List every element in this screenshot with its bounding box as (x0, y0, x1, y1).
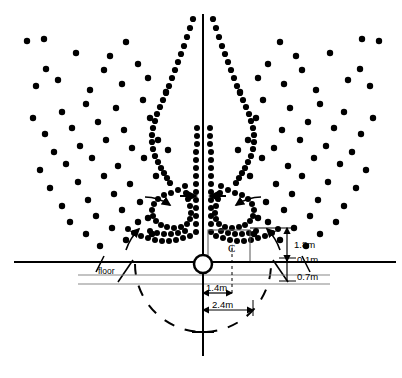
data-point (271, 145, 277, 151)
data-point (101, 173, 107, 179)
data-point (358, 131, 364, 137)
data-point (207, 141, 213, 147)
data-point (175, 230, 181, 236)
data-point (250, 146, 256, 152)
data-point (187, 25, 193, 31)
data-point (248, 118, 254, 124)
data-point (37, 167, 43, 173)
data-point (107, 53, 113, 59)
data-point (285, 163, 291, 169)
data-point (119, 207, 125, 213)
data-point (239, 192, 245, 198)
data-point (30, 115, 36, 121)
data-point (193, 213, 199, 219)
data-point (51, 149, 57, 155)
data-point (151, 201, 157, 207)
data-point (93, 213, 99, 219)
data-point (367, 83, 373, 89)
data-point (137, 199, 143, 205)
data-point (228, 67, 234, 73)
data-point (208, 181, 214, 187)
data-point (317, 101, 323, 107)
data-point (250, 213, 256, 219)
data-point (245, 159, 251, 165)
data-point (182, 183, 188, 189)
data-point (293, 53, 299, 59)
data-point (77, 143, 83, 149)
data-point (154, 111, 160, 117)
data-point (208, 165, 214, 171)
data-point (313, 87, 319, 93)
data-point (161, 231, 167, 237)
data-point (42, 131, 48, 137)
data-point (182, 228, 188, 234)
data-point (333, 219, 339, 225)
data-point (245, 137, 251, 143)
data-point (135, 219, 141, 225)
floor-flow-arrow-left-icon (118, 260, 133, 282)
data-point (150, 125, 156, 131)
data-point (341, 109, 347, 115)
data-point (207, 133, 213, 139)
data-point (194, 125, 200, 131)
data-point (75, 179, 81, 185)
data-point (155, 137, 161, 143)
data-point (184, 34, 190, 40)
data-point (315, 197, 321, 203)
plume-boundary-left (149, 16, 196, 186)
data-point (325, 179, 331, 185)
vortex-right (212, 183, 257, 231)
data-point (158, 222, 164, 228)
data-point (359, 36, 365, 42)
data-point (125, 226, 131, 232)
data-point (152, 153, 158, 159)
data-point (370, 115, 376, 121)
data-point (232, 231, 238, 237)
data-point (180, 235, 186, 241)
data-point (97, 243, 103, 249)
data-point (166, 83, 172, 89)
data-point (193, 165, 199, 171)
data-point (235, 147, 241, 153)
plume-diagram-figure: 1.8m 0.1m 0.7m 1.4m 2.4m ₵ floor (0, 0, 402, 378)
data-point (152, 118, 158, 124)
data-point (225, 187, 231, 193)
data-point (138, 233, 144, 239)
data-point (207, 125, 213, 131)
data-point (255, 75, 261, 81)
data-point (231, 75, 237, 81)
data-point (193, 181, 199, 187)
data-point (262, 233, 268, 239)
data-point (171, 225, 177, 231)
data-point (218, 183, 224, 189)
data-point (43, 66, 49, 72)
data-point (249, 201, 255, 207)
data-point (193, 149, 199, 155)
data-point (59, 203, 65, 209)
data-point (152, 237, 158, 243)
data-point (208, 189, 214, 195)
data-point (24, 38, 30, 44)
data-point (277, 237, 283, 243)
data-point (273, 181, 279, 187)
data-point (253, 228, 259, 234)
data-point (181, 43, 187, 49)
data-point (337, 161, 343, 167)
data-point (193, 189, 199, 195)
data-point (219, 43, 225, 49)
data-point (168, 190, 174, 196)
floor-flow-arrow-right-icon (273, 260, 288, 282)
data-point (145, 235, 151, 241)
data-point (153, 218, 159, 224)
data-point (327, 50, 333, 56)
data-point (69, 125, 75, 131)
data-point (193, 173, 199, 179)
data-point (109, 225, 115, 231)
data-point (233, 180, 239, 186)
data-point (187, 216, 193, 222)
data-point (83, 101, 89, 107)
data-point (145, 75, 151, 81)
data-point (154, 230, 160, 236)
data-point (67, 219, 73, 225)
data-point (168, 231, 174, 237)
